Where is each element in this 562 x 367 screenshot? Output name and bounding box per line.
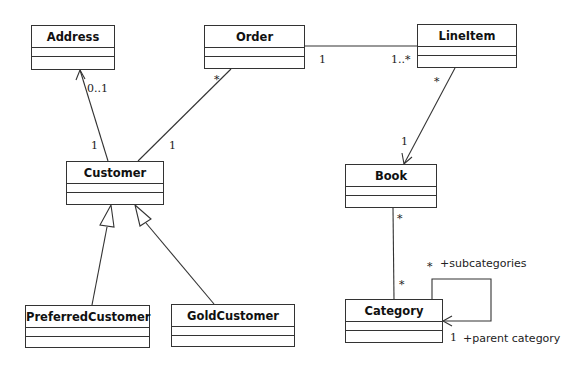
multiplicity-lineitem-book: * <box>434 75 440 88</box>
class-lineitem[interactable]: LineItem <box>417 24 517 68</box>
class-category[interactable]: Category <box>345 299 443 343</box>
multiplicity-book-lineitem: 1 <box>401 135 408 148</box>
class-goldcustomer[interactable]: GoldCustomer <box>171 304 295 347</box>
class-name: GoldCustomer <box>172 305 294 327</box>
class-name: Book <box>346 165 436 187</box>
attributes-compartment <box>32 48 114 57</box>
class-book[interactable]: Book <box>345 164 437 208</box>
class-customer[interactable]: Customer <box>66 161 164 205</box>
operations-compartment <box>205 57 304 69</box>
class-preferredcustomer[interactable]: PreferredCustomer <box>25 305 150 348</box>
class-name: LineItem <box>418 25 516 47</box>
book-category-association <box>393 208 394 299</box>
attributes-compartment <box>346 187 436 196</box>
multiplicity-parent: 1 <box>450 331 457 344</box>
role-parent-category: +parent category <box>463 332 560 345</box>
attributes-compartment <box>172 327 294 336</box>
attributes-compartment <box>26 328 149 337</box>
role-subcategories: +subcategories <box>440 257 527 270</box>
multiplicity-address: 0..1 <box>87 82 108 95</box>
attributes-compartment <box>346 322 442 331</box>
operations-compartment <box>172 336 294 348</box>
class-name: Category <box>346 300 442 322</box>
class-name: Customer <box>67 162 163 184</box>
multiplicity-customer-order: 1 <box>169 139 176 152</box>
open-arrowhead-icon <box>76 70 85 80</box>
operations-compartment <box>32 57 114 69</box>
attributes-compartment <box>205 48 304 57</box>
lineitem-book-association <box>404 68 455 164</box>
class-name: Order <box>205 26 304 48</box>
attributes-compartment <box>418 47 516 56</box>
multiplicity-category-book: * <box>399 278 405 291</box>
multiplicity-book-category: * <box>397 212 403 225</box>
class-address[interactable]: Address <box>31 25 115 70</box>
multiplicity-order-lineitem: 1 <box>319 53 326 66</box>
hollow-triangle-icon <box>135 205 151 226</box>
operations-compartment <box>418 56 516 68</box>
hollow-triangle-icon <box>100 205 114 227</box>
operations-compartment <box>26 337 149 349</box>
class-name: Address <box>32 26 114 48</box>
multiplicity-subcategories: * <box>427 260 433 273</box>
operations-compartment <box>346 196 436 208</box>
class-name: PreferredCustomer <box>26 306 149 328</box>
operations-compartment <box>67 193 163 205</box>
class-order[interactable]: Order <box>204 25 305 69</box>
operations-compartment <box>346 331 442 343</box>
multiplicity-lineitem-order: 1..* <box>391 53 411 66</box>
goldcustomer-generalization <box>146 223 214 304</box>
multiplicity-customer-address: 1 <box>91 139 98 152</box>
multiplicity-order-customer: * <box>214 73 220 86</box>
attributes-compartment <box>67 184 163 193</box>
preferredcustomer-generalization <box>92 227 107 305</box>
uml-class-diagram: Address Order LineItem Customer Book Pre… <box>0 0 562 367</box>
